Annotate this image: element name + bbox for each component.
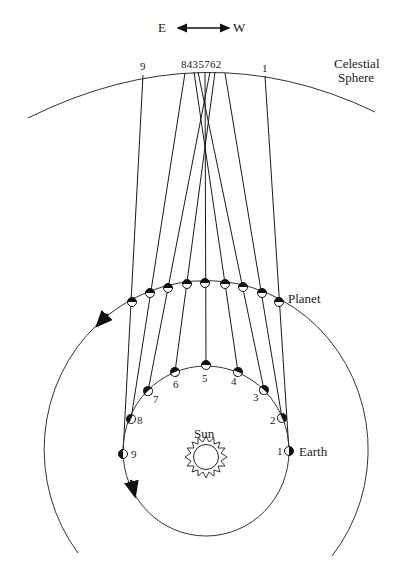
- sight-line-3: [198, 72, 264, 390]
- celestial-sphere-label-line1: Celestial: [334, 56, 380, 71]
- west-label: W: [233, 20, 246, 35]
- planet-position-3: [239, 283, 248, 292]
- planet-position-7: [164, 284, 173, 293]
- sight-line-9: [123, 75, 143, 454]
- retrograde-motion-diagram: E W Celestial Sphere 9 8435762 1: [0, 0, 397, 579]
- planet-position-9: [128, 298, 137, 307]
- earth-position-8: [125, 413, 137, 425]
- earth-number-2: 2: [270, 414, 276, 426]
- earth-number-3: 3: [253, 391, 259, 403]
- planet-orbit-arrow-icon: [97, 314, 108, 326]
- earth-position-6: [169, 366, 181, 378]
- earth-position-9: [119, 450, 128, 459]
- celestial-sphere-label-line2: Sphere: [338, 70, 374, 85]
- sphere-label-cluster: 8435762: [181, 58, 222, 70]
- sight-lines: [123, 72, 289, 454]
- sight-line-5: [205, 72, 206, 365]
- sphere-label-1: 1: [262, 62, 268, 74]
- earth-position-5: [202, 361, 211, 370]
- planet-position-2: [258, 289, 267, 298]
- sun-icon: [185, 436, 227, 478]
- sun-label: Sun: [194, 426, 215, 441]
- planet-position-1: [275, 298, 284, 307]
- direction-indicator: E W: [158, 20, 246, 35]
- earth-position-1: [285, 447, 294, 456]
- planet-position-6: [183, 280, 192, 289]
- planet-label: Planet: [288, 291, 321, 306]
- earth-number-1: 1: [277, 445, 283, 457]
- earth-number-4: 4: [231, 375, 237, 387]
- east-label: E: [158, 20, 166, 35]
- earth-number-5: 5: [202, 372, 208, 384]
- earth-number-7: 7: [153, 393, 159, 405]
- planet-position-4: [221, 280, 230, 289]
- sphere-label-9: 9: [140, 60, 146, 72]
- planet-position-5: [201, 279, 210, 288]
- celestial-sphere-arc: [28, 72, 375, 118]
- sight-line-8: [131, 73, 185, 419]
- earth-number-8: 8: [137, 414, 143, 426]
- earth-label: Earth: [299, 444, 328, 459]
- earth-number-6: 6: [173, 378, 179, 390]
- planet-position-8: [146, 289, 155, 298]
- earth-number-9: 9: [131, 448, 137, 460]
- sight-line-4: [194, 72, 238, 372]
